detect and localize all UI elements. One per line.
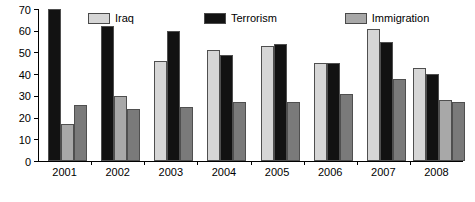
bar-environment-2005 [287,102,300,161]
bar-terrorism-2008 [426,74,439,161]
bar-environment-2003 [180,107,193,161]
y-tick-0: 0 [34,161,38,162]
bar-terrorism-2003 [167,31,180,161]
y-tick-40: 40 [34,74,38,75]
bar-terrorism-2002 [101,26,114,161]
y-tick-30: 30 [34,96,38,97]
bars-layer [39,9,463,161]
x-label-2001: 2001 [52,167,76,178]
bar-immigration-2002 [114,96,127,161]
bar-terrorism-2001 [48,9,61,161]
y-tick-60: 60 [34,31,38,32]
bar-environment-2002 [127,109,140,161]
bar-iraq-2006 [314,63,327,161]
y-tick-70: 70 [34,9,38,10]
bar-environment-2001 [74,105,87,161]
bar-immigration-2008 [439,100,452,161]
y-tick-label-0: 0 [25,156,31,167]
bar-environment-2007 [393,79,406,162]
plot-area: 010203040506070 200120022003200420052006… [38,9,463,161]
x-label-2004: 2004 [212,167,236,178]
bar-terrorism-2005 [274,44,287,161]
x-tick-2 [144,161,145,165]
x-tick-5 [304,161,305,165]
x-tick-3 [197,161,198,165]
bar-terrorism-2007 [380,42,393,161]
x-tick-6 [357,161,358,165]
bar-terrorism-2004 [220,55,233,161]
y-tick-label-50: 50 [19,47,31,58]
x-tick-4 [251,161,252,165]
bar-environment-2004 [233,102,246,161]
x-tick-7 [410,161,411,165]
bar-environment-2006 [340,94,353,161]
bar-iraq-2007 [367,29,380,161]
x-label-2003: 2003 [159,167,183,178]
bar-immigration-2001 [61,124,74,161]
x-label-2008: 2008 [424,167,448,178]
bar-iraq-2008 [413,68,426,161]
y-tick-label-60: 60 [19,26,31,37]
y-tick-label-10: 10 [19,134,31,145]
x-label-2005: 2005 [265,167,289,178]
y-tick-label-20: 20 [19,113,31,124]
bar-environment-2008 [452,102,465,161]
y-tick-label-30: 30 [19,91,31,102]
bar-chart: IraqTerrorismImmigrationEnvironment 0102… [0,0,475,202]
bar-iraq-2003 [154,61,167,161]
bar-iraq-2005 [261,46,274,161]
y-tick-label-40: 40 [19,69,31,80]
bar-iraq-2004 [207,50,220,161]
x-label-2006: 2006 [318,167,342,178]
x-label-2007: 2007 [371,167,395,178]
bar-terrorism-2006 [327,63,340,161]
x-tick-1 [91,161,92,165]
y-tick-20: 20 [34,118,38,119]
y-tick-50: 50 [34,52,38,53]
y-tick-10: 10 [34,139,38,140]
y-tick-label-70: 70 [19,4,31,15]
x-label-2002: 2002 [105,167,129,178]
